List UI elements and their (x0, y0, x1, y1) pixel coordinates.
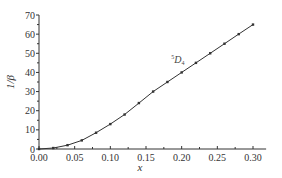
series-line (39, 25, 253, 149)
data-point (38, 148, 40, 150)
axes (39, 15, 266, 149)
y-axis-label: 1/β (4, 74, 16, 89)
data-point (209, 52, 211, 54)
x-axis-label: x (137, 161, 143, 173)
data-point (109, 123, 111, 125)
y-tick-label: 60 (25, 29, 35, 40)
y-tick-label: 50 (25, 48, 35, 59)
data-point (238, 33, 240, 35)
data-point (123, 113, 125, 115)
y-tick-label: 20 (25, 105, 35, 116)
data-point (52, 147, 54, 149)
x-tick-label: 0.00 (30, 152, 48, 163)
x-tick-label: 0.25 (209, 152, 227, 163)
data-point (223, 43, 225, 45)
data-point (152, 90, 154, 92)
y-tick-label: 70 (25, 10, 35, 21)
data-point (166, 81, 168, 83)
data-point (95, 132, 97, 134)
y-tick-label: 40 (25, 67, 35, 78)
ticks: 0102030405060700.000.050.100.150.200.250… (25, 10, 262, 164)
line-chart: 0102030405060700.000.050.100.150.200.250… (0, 0, 282, 178)
data-point (252, 23, 254, 25)
y-tick-label: 10 (25, 124, 35, 135)
x-tick-label: 0.10 (102, 152, 120, 163)
x-tick-label: 0.30 (244, 152, 262, 163)
data-point (81, 139, 83, 141)
data-point (138, 102, 140, 104)
data-point (195, 62, 197, 64)
y-tick-label: 30 (25, 86, 35, 97)
x-tick-label: 0.05 (66, 152, 84, 163)
x-tick-label: 0.20 (173, 152, 191, 163)
data-point (180, 71, 182, 73)
data-point (66, 144, 68, 146)
data-series (38, 23, 254, 150)
series-annotation: 5D4 (171, 54, 184, 66)
